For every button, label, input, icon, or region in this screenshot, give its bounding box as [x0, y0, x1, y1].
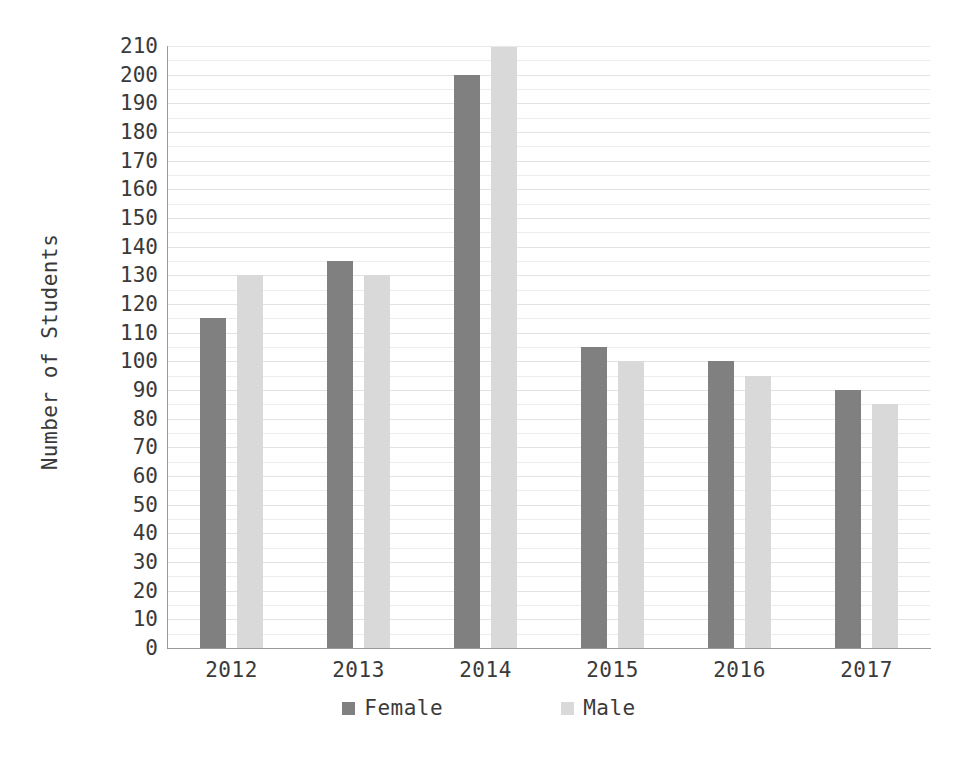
bar-female-2017 [835, 390, 861, 648]
y-tick-label: 200 [38, 64, 158, 85]
gridline [168, 189, 930, 190]
gridline [168, 419, 930, 420]
gridline-minor [168, 347, 930, 348]
gridline [168, 390, 930, 391]
gridline-minor [168, 146, 930, 147]
gridline [168, 304, 930, 305]
y-tick-label: 120 [38, 294, 158, 315]
y-tick-label: 0 [38, 638, 158, 659]
bar-male-2012 [237, 275, 263, 648]
y-tick-label: 80 [38, 408, 158, 429]
y-tick-label: 110 [38, 322, 158, 343]
gridline-minor [168, 433, 930, 434]
bar-male-2015 [618, 361, 644, 648]
gridline-minor [168, 60, 930, 61]
gridline [168, 218, 930, 219]
gridline [168, 562, 930, 563]
y-tick-label: 90 [38, 380, 158, 401]
legend-swatch-female-icon [342, 702, 355, 715]
gridline-minor [168, 519, 930, 520]
bar-male-2013 [364, 275, 390, 648]
gridline-minor [168, 634, 930, 635]
y-tick-label: 30 [38, 552, 158, 573]
y-tick-label: 60 [38, 466, 158, 487]
gridline [168, 533, 930, 534]
legend-label-male: Male [583, 696, 636, 720]
bar-chart: Number of Students 010203040506070809010… [0, 0, 978, 770]
y-tick-label: 130 [38, 265, 158, 286]
bar-female-2015 [581, 347, 607, 648]
x-tick-label-2013: 2013 [295, 658, 422, 682]
gridline [168, 447, 930, 448]
gridline [168, 132, 930, 133]
gridline [168, 247, 930, 248]
bar-male-2017 [872, 404, 898, 648]
chart-legend: FemaleMale [0, 696, 978, 720]
gridline-minor [168, 376, 930, 377]
bar-male-2016 [745, 376, 771, 648]
gridline-minor [168, 548, 930, 549]
legend-swatch-male-icon [561, 702, 574, 715]
x-tick-label-2016: 2016 [676, 658, 803, 682]
gridline [168, 591, 930, 592]
y-axis-line [167, 46, 168, 649]
gridline [168, 75, 930, 76]
y-tick-label: 10 [38, 609, 158, 630]
x-tick-label-2014: 2014 [422, 658, 549, 682]
plot-area [168, 46, 930, 648]
x-axis-line [167, 648, 931, 649]
gridline-minor [168, 261, 930, 262]
gridline-minor [168, 404, 930, 405]
bar-male-2014 [491, 46, 517, 648]
bar-female-2014 [454, 75, 480, 648]
legend-item-female[interactable]: Female [342, 696, 443, 720]
gridline-minor [168, 576, 930, 577]
y-tick-label: 210 [38, 36, 158, 57]
gridline [168, 333, 930, 334]
gridline-minor [168, 290, 930, 291]
bar-female-2013 [327, 261, 353, 648]
gridline-minor [168, 89, 930, 90]
y-tick-label: 140 [38, 236, 158, 257]
gridline-minor [168, 605, 930, 606]
legend-item-male[interactable]: Male [561, 696, 636, 720]
x-tick-label-2012: 2012 [168, 658, 295, 682]
x-tick-label-2017: 2017 [803, 658, 930, 682]
gridline-minor [168, 204, 930, 205]
y-axis-ticks: 0102030405060708090100110120130140150160… [30, 46, 158, 648]
gridline-minor [168, 462, 930, 463]
bar-female-2016 [708, 361, 734, 648]
bar-female-2012 [200, 318, 226, 648]
legend-label-female: Female [364, 696, 443, 720]
y-tick-label: 180 [38, 122, 158, 143]
y-tick-label: 190 [38, 93, 158, 114]
y-tick-label: 20 [38, 580, 158, 601]
y-tick-label: 100 [38, 351, 158, 372]
gridline-minor [168, 490, 930, 491]
gridline [168, 275, 930, 276]
y-tick-label: 40 [38, 523, 158, 544]
gridline [168, 103, 930, 104]
plot-top-border [168, 46, 930, 47]
y-tick-label: 70 [38, 437, 158, 458]
y-tick-label: 170 [38, 150, 158, 171]
gridline [168, 476, 930, 477]
gridline [168, 619, 930, 620]
gridline-minor [168, 232, 930, 233]
y-tick-label: 160 [38, 179, 158, 200]
gridline-minor [168, 175, 930, 176]
gridline-minor [168, 318, 930, 319]
x-tick-label-2015: 2015 [549, 658, 676, 682]
gridline [168, 505, 930, 506]
y-tick-label: 50 [38, 494, 158, 515]
gridline [168, 361, 930, 362]
gridline-minor [168, 118, 930, 119]
gridline [168, 161, 930, 162]
y-tick-label: 150 [38, 208, 158, 229]
